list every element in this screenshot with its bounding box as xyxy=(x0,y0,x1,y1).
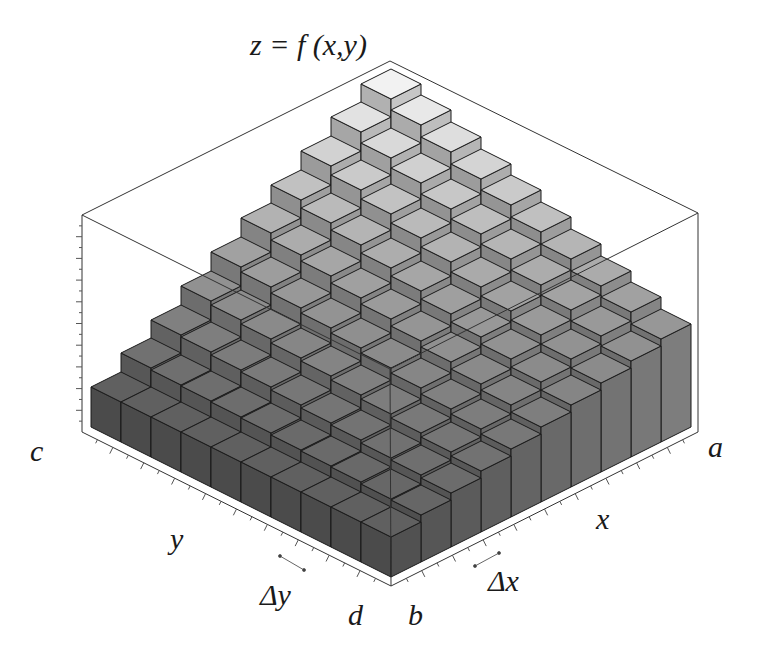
x-axis-tick xyxy=(591,486,593,490)
y-axis-tick xyxy=(326,555,329,561)
x-end-label-a: a xyxy=(708,432,723,462)
y-axis-tick xyxy=(312,548,314,552)
x-axis-tick xyxy=(667,447,670,453)
x-axis-tick xyxy=(683,440,685,444)
x-axis-tick xyxy=(437,563,439,567)
delta-marker-end xyxy=(303,569,306,572)
x-axis-tick xyxy=(606,478,609,484)
bar-right-face xyxy=(631,346,661,457)
y-axis-tick xyxy=(141,463,144,469)
y-axis-tick xyxy=(157,471,159,475)
x-axis-tick xyxy=(575,494,578,500)
x-axis-tick xyxy=(545,509,548,515)
x-start-label-b: b xyxy=(408,600,423,630)
y-axis-label: y xyxy=(170,524,183,554)
delta-x-label: Δx xyxy=(488,566,519,596)
bar-right-face xyxy=(661,324,691,442)
x-axis-tick xyxy=(422,571,425,577)
x-axis-tick xyxy=(652,455,654,459)
x-axis-tick xyxy=(483,540,486,546)
y-axis-tick xyxy=(374,578,376,582)
y-axis-tick xyxy=(343,563,345,567)
x-axis-tick xyxy=(498,532,500,536)
delta-marker-end xyxy=(498,552,501,555)
bar-right-face xyxy=(601,368,631,472)
x-axis-tick xyxy=(529,517,531,521)
z-axis-label: z = f (x,y) xyxy=(250,30,367,60)
y-axis-tick xyxy=(172,478,175,484)
y-start-label-d: d xyxy=(348,600,363,630)
bar-right-face xyxy=(571,390,601,487)
y-axis-tick xyxy=(295,540,298,546)
x-axis-label: x xyxy=(596,504,609,534)
y-axis-tick xyxy=(127,455,129,459)
x-axis-tick xyxy=(621,471,623,475)
x-axis-tick xyxy=(468,548,470,552)
y-axis-tick xyxy=(219,501,221,505)
delta-y-label: Δy xyxy=(260,580,291,610)
y-axis-tick xyxy=(110,447,113,453)
x-axis-tick xyxy=(560,501,562,505)
bar-right-face xyxy=(541,412,571,502)
x-axis-tick xyxy=(637,463,640,469)
y-axis-tick xyxy=(281,532,283,536)
y-axis-tick xyxy=(264,524,267,530)
y-axis-tick xyxy=(188,486,190,490)
y-axis-tick xyxy=(250,517,252,521)
y-axis-tick xyxy=(96,440,98,444)
delta-marker-end xyxy=(474,565,477,568)
y-axis-tick xyxy=(202,494,205,500)
y-axis-tick xyxy=(233,509,236,515)
delta-marker-end xyxy=(279,555,282,558)
bar3d-plot xyxy=(0,0,764,664)
x-axis-tick xyxy=(452,555,455,561)
y-axis-tick xyxy=(357,571,360,577)
delta-y-marker xyxy=(280,556,304,570)
x-axis-tick xyxy=(406,578,408,582)
x-axis-tick xyxy=(514,524,517,530)
y-end-label-c: c xyxy=(30,436,43,466)
